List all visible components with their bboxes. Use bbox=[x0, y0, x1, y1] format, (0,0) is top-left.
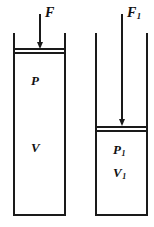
right-cylinder-wall-right bbox=[146, 33, 148, 216]
right-force-label-text: F bbox=[127, 5, 136, 20]
right-pressure-label: P1 bbox=[113, 143, 125, 156]
left-force-arrow-shaft bbox=[39, 14, 41, 43]
left-cylinder-base bbox=[13, 214, 66, 216]
right-volume-label-text: V bbox=[113, 165, 122, 180]
right-force-label: F1 bbox=[127, 6, 141, 20]
left-cylinder-wall-left bbox=[13, 33, 15, 216]
right-piston-bottom-edge bbox=[95, 130, 148, 132]
right-volume-label-subscript: 1 bbox=[122, 172, 126, 181]
left-cylinder-wall-right bbox=[64, 33, 66, 216]
left-force-label: F bbox=[45, 6, 54, 20]
left-piston-bottom-edge bbox=[13, 52, 66, 54]
right-force-arrow-shaft bbox=[121, 14, 123, 120]
left-force-arrow-head bbox=[37, 42, 43, 49]
right-pressure-label-text: P bbox=[113, 142, 121, 157]
left-volume-label-text: V bbox=[31, 140, 40, 155]
piston-cylinder-figure: F P V F1 P1 V1 bbox=[0, 0, 154, 227]
left-pressure-label-text: P bbox=[31, 73, 39, 88]
right-cylinder-base bbox=[95, 214, 148, 216]
left-force-arrow bbox=[37, 14, 44, 49]
right-force-arrow-head bbox=[119, 119, 125, 126]
right-cylinder-wall-left bbox=[95, 33, 97, 216]
right-force-label-subscript: 1 bbox=[137, 11, 141, 21]
left-volume-label: V bbox=[31, 141, 40, 154]
right-volume-label: V1 bbox=[113, 166, 126, 179]
right-force-arrow bbox=[119, 14, 126, 127]
left-force-label-text: F bbox=[45, 5, 54, 20]
right-pressure-label-subscript: 1 bbox=[121, 149, 125, 158]
left-pressure-label: P bbox=[31, 74, 39, 87]
